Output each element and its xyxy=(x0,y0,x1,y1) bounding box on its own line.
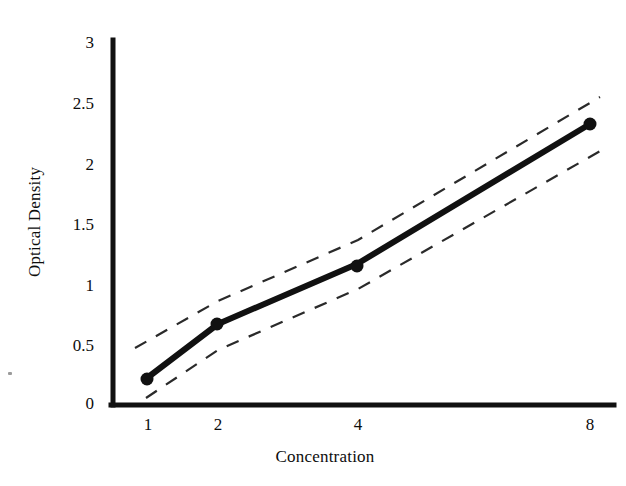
x-tick-label-8: 8 xyxy=(570,415,610,435)
y-tick-label-3: 3 xyxy=(48,33,94,53)
data-point-marker xyxy=(141,373,154,386)
chart-container: 3 2.5 2 1.5 1 0.5 0 1 2 4 8 Concentratio… xyxy=(0,0,626,486)
data-point-marker xyxy=(351,260,364,273)
y-tick-label-2: 2 xyxy=(48,155,94,175)
data-point-marker xyxy=(584,118,597,131)
y-tick-label-1-5: 1.5 xyxy=(48,215,94,235)
upper-confidence-band xyxy=(135,97,600,348)
x-axis-title: Concentration xyxy=(0,447,626,467)
y-axis-title: Optical Density xyxy=(25,142,45,302)
x-tick-label-4: 4 xyxy=(338,415,378,435)
x-tick-label-2: 2 xyxy=(198,415,238,435)
y-tick-label-2-5: 2.5 xyxy=(48,94,94,114)
y-tick-label-1: 1 xyxy=(48,276,94,296)
y-tick-label-0: 0 xyxy=(48,394,94,414)
lower-confidence-band xyxy=(146,150,602,398)
x-tick-label-1: 1 xyxy=(128,415,168,435)
regression-line xyxy=(147,124,590,378)
y-tick-label-0-5: 0.5 xyxy=(48,336,94,356)
data-point-marker xyxy=(211,318,224,331)
